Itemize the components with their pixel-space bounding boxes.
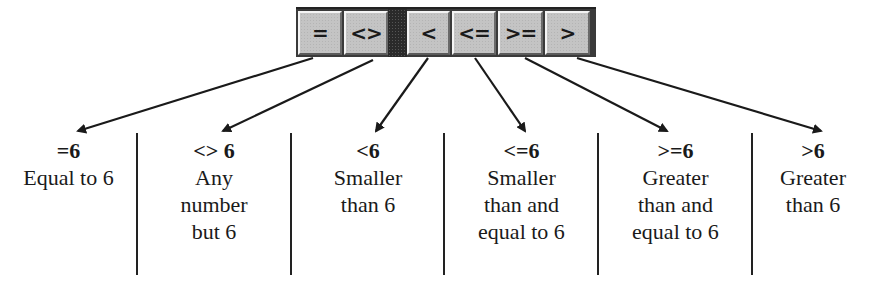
criteria-title: >=6 <box>599 138 752 164</box>
arrow-not-equal <box>223 60 373 131</box>
arrow-equal <box>78 58 313 131</box>
column-greater-than: >6 Greater than 6 <box>753 138 873 218</box>
criteria-title: <> 6 <box>138 138 290 164</box>
criteria-title: <=6 <box>445 138 598 164</box>
column-greater-equal: >=6 Greater than and equal to 6 <box>599 138 752 245</box>
criteria-description: Smaller than and equal to 6 <box>445 164 598 245</box>
criteria-description: Smaller than 6 <box>292 164 444 218</box>
column-not-equal: <> 6 Any number but 6 <box>138 138 290 245</box>
arrow-less-equal <box>475 58 525 131</box>
column-less-than: <6 Smaller than 6 <box>292 138 444 218</box>
criteria-description: Greater than 6 <box>753 164 873 218</box>
arrow-greater-equal <box>525 58 667 131</box>
criteria-title: >6 <box>753 138 873 164</box>
criteria-title: <6 <box>292 138 444 164</box>
arrow-less-than <box>376 58 428 131</box>
column-less-equal: <=6 Smaller than and equal to 6 <box>445 138 598 245</box>
arrow-greater-than <box>577 58 821 131</box>
criteria-description: Greater than and equal to 6 <box>599 164 752 245</box>
criteria-description: Any number but 6 <box>138 164 290 245</box>
column-equal: =6 Equal to 6 <box>0 138 137 191</box>
criteria-title: =6 <box>0 138 137 164</box>
criteria-description: Equal to 6 <box>0 164 137 191</box>
